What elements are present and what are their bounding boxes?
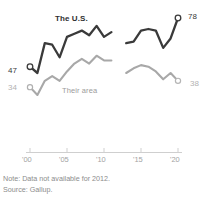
line-chart-plot: [0, 0, 207, 200]
source-text: Source: Gallup.: [3, 185, 110, 196]
their-area-end-marker: [175, 78, 180, 83]
us-start-marker: [27, 64, 33, 70]
x-axis-tick-label: '05: [59, 155, 69, 164]
us-end-value-label: 78: [188, 12, 197, 21]
their-area-start-value-label: 34: [8, 83, 17, 92]
x-axis-tick-label: '20: [170, 155, 180, 164]
their-area-line-segment-2: [126, 65, 178, 81]
us-line-segment-2: [126, 18, 178, 48]
x-axis-tick-label: '10: [96, 155, 106, 164]
their-area-start-marker: [27, 85, 32, 90]
us-end-marker: [175, 15, 181, 21]
series-the-us: [27, 15, 181, 73]
us-start-value-label: 47: [8, 66, 17, 75]
series-label-their-area: Their area: [62, 86, 97, 95]
series-their-area: [27, 56, 180, 95]
x-axis-tick-label: '15: [133, 155, 143, 164]
note-text: Note: Data not available for 2012.: [3, 174, 110, 185]
chart-container: The U.S. Their area 47 34 78 38 '00'05'1…: [0, 0, 207, 200]
x-axis-tick-label: '00: [22, 155, 32, 164]
us-line-segment-1: [30, 26, 111, 73]
chart-footnotes: Note: Data not available for 2012. Sourc…: [3, 174, 110, 195]
x-axis: [26, 148, 182, 153]
their-area-end-value-label: 38: [190, 79, 199, 88]
series-label-the-us: The U.S.: [55, 14, 88, 23]
